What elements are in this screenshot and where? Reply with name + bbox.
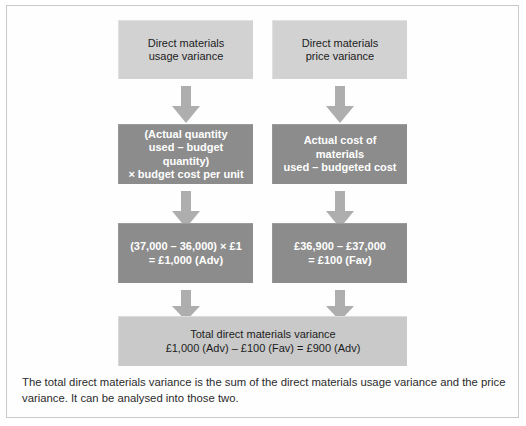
box-total-variance-line2: £1,000 (Adv) – £100 (Fav) = £900 (Adv) — [160, 342, 367, 355]
down-arrow-icon — [322, 86, 358, 124]
box-price-variance-formula-label: Actual cost of materials used – budgeted… — [273, 134, 407, 174]
down-arrow-icon — [168, 86, 204, 124]
diagram-caption: The total direct materials variance is t… — [22, 374, 506, 407]
box-price-variance-header: Direct materials price variance — [272, 20, 407, 79]
variance-flowchart: Direct materials usage variance Direct m… — [0, 0, 526, 426]
box-price-variance-calculation-label: £36,900 – £37,000 = £100 (Fav) — [288, 240, 392, 267]
box-price-variance-formula: Actual cost of materials used – budgeted… — [272, 124, 407, 184]
box-price-variance-calculation: £36,900 – £37,000 = £100 (Fav) — [272, 223, 407, 283]
box-price-variance-header-label: Direct materials price variance — [296, 37, 384, 64]
screenshot-root: Direct materials usage variance Direct m… — [0, 0, 526, 426]
box-usage-variance-formula-label: (Actual quantity used – budget quantity)… — [119, 128, 253, 182]
box-usage-variance-calculation-label: (37,000 – 36,000) × £1 = £1,000 (Adv) — [124, 240, 248, 267]
box-usage-variance-calculation: (37,000 – 36,000) × £1 = £1,000 (Adv) — [118, 223, 253, 283]
box-usage-variance-formula: (Actual quantity used – budget quantity)… — [118, 124, 253, 184]
box-usage-variance-header: Direct materials usage variance — [118, 20, 253, 79]
box-usage-variance-header-label: Direct materials usage variance — [142, 37, 230, 64]
box-total-variance: Total direct materials variance £1,000 (… — [118, 316, 407, 366]
box-total-variance-line1: Total direct materials variance — [184, 328, 342, 341]
